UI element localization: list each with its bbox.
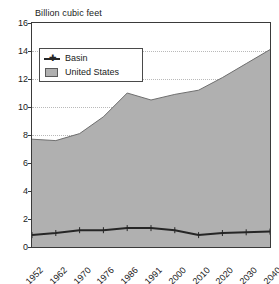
legend-label-united-states: United States	[65, 67, 119, 77]
y-axis-tick-label: 10	[2, 102, 28, 112]
y-axis-tick-label: 12	[2, 74, 28, 84]
legend-item-united-states: United States	[44, 65, 138, 79]
legend-line-marker-icon: ✚	[44, 53, 60, 64]
legend-swatch-icon	[44, 67, 60, 78]
x-axis-tick-label: 2040	[276, 251, 279, 272]
x-axis-tick-label: 2000	[181, 251, 202, 272]
y-axis-tick-label: 0	[2, 242, 28, 252]
x-axis-tick-label: 1962	[62, 251, 83, 272]
y-axis-tick-label: 2	[2, 214, 28, 224]
x-axis: 1952196219701976198619912000201020202030…	[31, 249, 271, 284]
y-axis-tick-label: 4	[2, 186, 28, 196]
legend-label-basin: Basin	[65, 53, 88, 63]
chart-container: Billion cubic feet 0246810121416 ✚ Basin…	[0, 0, 279, 284]
y-axis-tick-label: 14	[2, 46, 28, 56]
chart-title: Billion cubic feet	[35, 8, 102, 18]
x-axis-tick-label: 1991	[157, 251, 178, 272]
y-axis-tick-label: 8	[2, 130, 28, 140]
y-axis: 0246810121416	[0, 22, 28, 248]
x-axis-tick-label: 1952	[38, 251, 59, 272]
chart-legend: ✚ Basin United States	[39, 48, 143, 82]
y-axis-tick-label: 6	[2, 158, 28, 168]
y-axis-tick-label: 16	[2, 18, 28, 28]
legend-item-basin: ✚ Basin	[44, 51, 138, 65]
